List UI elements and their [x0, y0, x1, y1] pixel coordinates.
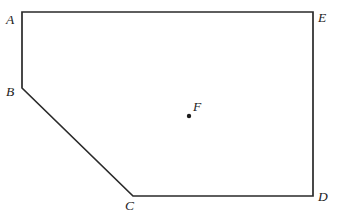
vertex-label-e: E: [318, 11, 326, 25]
vertex-label-c: C: [125, 199, 134, 213]
vertex-label-d: D: [318, 190, 328, 204]
geometry-figure-canvas: A E D C B F: [0, 0, 337, 215]
vertex-label-b: B: [6, 85, 14, 99]
point-f-dot: [187, 114, 191, 118]
vertex-label-a: A: [6, 13, 14, 27]
geometry-figure-svg: [0, 0, 337, 215]
point-label-f: F: [193, 100, 201, 114]
pentagon-abcde-outline: [22, 12, 313, 196]
